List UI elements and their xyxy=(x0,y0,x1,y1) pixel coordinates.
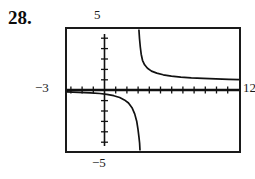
graph-figure: 28. xyxy=(0,0,255,179)
curve-upper-branch xyxy=(139,30,239,80)
graph-canvas xyxy=(65,27,241,153)
plot-area xyxy=(65,27,241,153)
problem-number-label: 28. xyxy=(8,8,32,27)
x-min-label: −3 xyxy=(35,81,49,94)
x-max-label: 12 xyxy=(243,81,255,94)
y-max-label: 5 xyxy=(94,8,101,21)
y-min-label: −5 xyxy=(92,156,106,169)
